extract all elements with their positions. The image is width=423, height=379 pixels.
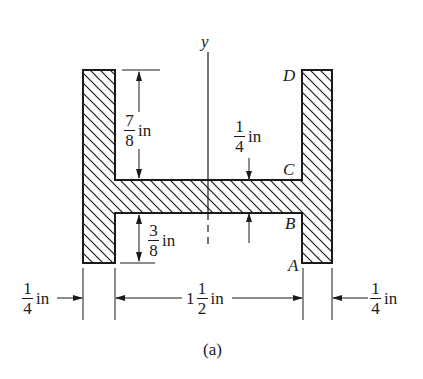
- whole-number: 1: [186, 289, 195, 309]
- denominator: 8: [125, 132, 134, 149]
- arrow-head-icon: [136, 71, 142, 81]
- arrow-head-icon: [246, 171, 252, 180]
- arrow-head-icon: [293, 295, 303, 301]
- dim-label-web-1-4: 14 in: [234, 118, 261, 155]
- arrow-head-icon: [332, 295, 342, 301]
- numerator: 1: [371, 280, 380, 297]
- arrow-head-icon: [246, 213, 252, 222]
- arrow-head-icon: [73, 295, 83, 301]
- dim-label-right-flange: 14 in: [370, 280, 397, 317]
- numerator: 3: [149, 222, 158, 239]
- dim-label-inner-width: 1 12 in: [186, 280, 224, 317]
- point-label-d: D: [283, 66, 295, 86]
- denominator: 4: [235, 138, 244, 155]
- denominator: 2: [198, 300, 207, 317]
- arrow-head-icon: [136, 214, 142, 224]
- arrow-head-icon: [136, 169, 142, 179]
- numerator: 1: [235, 118, 244, 135]
- figure-caption: (a): [203, 340, 222, 360]
- numerator: 7: [125, 112, 134, 129]
- denominator: 4: [23, 300, 32, 317]
- y-axis-label: y: [201, 32, 209, 52]
- numerator: 1: [198, 280, 207, 297]
- point-label-b: B: [285, 214, 295, 234]
- point-label-c: C: [283, 160, 294, 180]
- arrow-head-icon: [136, 252, 142, 262]
- numerator: 1: [23, 280, 32, 297]
- unit: in: [211, 289, 224, 309]
- denominator: 8: [149, 242, 158, 259]
- dim-label-left-flange: 14 in: [22, 280, 49, 317]
- arrow-head-icon: [115, 295, 125, 301]
- unit: in: [162, 231, 175, 251]
- unit: in: [138, 121, 151, 141]
- unit: in: [248, 127, 261, 147]
- dim-label-3-8: 38 in: [148, 222, 175, 259]
- unit: in: [384, 289, 397, 309]
- denominator: 4: [371, 300, 380, 317]
- point-label-a: A: [288, 256, 298, 276]
- unit: in: [36, 289, 49, 309]
- h-section-diagram: [0, 0, 423, 379]
- dim-label-7-8: 78 in: [124, 112, 151, 149]
